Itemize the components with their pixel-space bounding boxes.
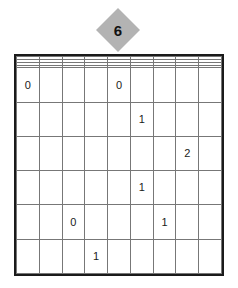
cell-value: 2	[176, 148, 198, 159]
grid-cell[interactable]	[85, 136, 108, 170]
grid-cell[interactable]	[176, 239, 199, 273]
grid-cell[interactable]	[17, 102, 40, 136]
cell-value: 0	[108, 80, 130, 91]
clue-marker: 6	[96, 8, 140, 52]
cell-value: 1	[131, 114, 153, 125]
grid-cell[interactable]	[17, 239, 40, 273]
cell-value: 0	[17, 80, 39, 91]
grid-cell[interactable]	[176, 102, 199, 136]
cell-value: 1	[131, 182, 153, 193]
grid-cell[interactable]: 0	[17, 68, 40, 102]
marker-layer: 6	[0, 0, 238, 60]
grid-table: 00121011	[16, 56, 222, 274]
grid-row: 1	[17, 102, 222, 136]
grid-cell[interactable]: 1	[130, 171, 153, 205]
grid-cell[interactable]	[62, 239, 85, 273]
grid-cell[interactable]	[176, 205, 199, 239]
puzzle-grid[interactable]: 00121011	[14, 54, 224, 276]
grid-cell[interactable]	[153, 239, 176, 273]
cell-value: 1	[85, 251, 107, 262]
grid-cell[interactable]	[62, 171, 85, 205]
grid-cell[interactable]	[85, 171, 108, 205]
grid-cell[interactable]	[39, 171, 62, 205]
grid-cell[interactable]	[17, 205, 40, 239]
grid-cell[interactable]: 1	[85, 239, 108, 273]
grid-cell[interactable]	[62, 102, 85, 136]
grid-cell[interactable]: 0	[108, 68, 131, 102]
grid-cell[interactable]	[199, 136, 222, 170]
grid-row: 2	[17, 136, 222, 170]
grid-cell[interactable]	[108, 171, 131, 205]
grid-cell[interactable]	[108, 205, 131, 239]
grid-cell[interactable]	[130, 136, 153, 170]
grid-cell[interactable]	[130, 239, 153, 273]
grid-cell[interactable]: 1	[130, 102, 153, 136]
grid-cell[interactable]: 0	[62, 205, 85, 239]
grid-body: 00121011	[17, 57, 222, 274]
grid-cell[interactable]	[176, 68, 199, 102]
grid-cell[interactable]	[39, 239, 62, 273]
grid-cell[interactable]	[176, 171, 199, 205]
grid-cell[interactable]	[153, 102, 176, 136]
grid-cell[interactable]	[39, 136, 62, 170]
grid-cell[interactable]	[199, 205, 222, 239]
grid-cell[interactable]: 2	[176, 136, 199, 170]
grid-row: 1	[17, 239, 222, 273]
grid-cell[interactable]	[108, 136, 131, 170]
cell-value: 1	[154, 217, 176, 228]
grid-row: 00	[17, 68, 222, 102]
grid-row: 01	[17, 205, 222, 239]
grid-cell[interactable]	[62, 136, 85, 170]
grid-cell[interactable]	[39, 205, 62, 239]
grid-cell[interactable]	[130, 68, 153, 102]
grid-cell[interactable]	[199, 68, 222, 102]
grid-cell[interactable]	[130, 205, 153, 239]
grid-cell[interactable]	[85, 205, 108, 239]
grid-cell[interactable]	[199, 102, 222, 136]
grid-cell[interactable]	[85, 68, 108, 102]
grid-row: 1	[17, 171, 222, 205]
grid-cell[interactable]	[17, 136, 40, 170]
grid-cell[interactable]	[199, 239, 222, 273]
grid-cell[interactable]	[39, 68, 62, 102]
grid-cell[interactable]: 1	[153, 205, 176, 239]
puzzle-container: 6 00121011	[0, 0, 238, 288]
grid-cell[interactable]	[153, 136, 176, 170]
grid-cell[interactable]	[153, 68, 176, 102]
grid-cell[interactable]	[108, 239, 131, 273]
grid-cell[interactable]	[199, 171, 222, 205]
grid-cell[interactable]	[108, 102, 131, 136]
grid-cell[interactable]	[17, 171, 40, 205]
grid-cell[interactable]	[153, 171, 176, 205]
grid-cell[interactable]	[62, 68, 85, 102]
cell-value: 0	[63, 217, 85, 228]
grid-cell[interactable]	[39, 102, 62, 136]
clue-marker-label: 6	[96, 8, 140, 52]
grid-cell[interactable]	[85, 102, 108, 136]
